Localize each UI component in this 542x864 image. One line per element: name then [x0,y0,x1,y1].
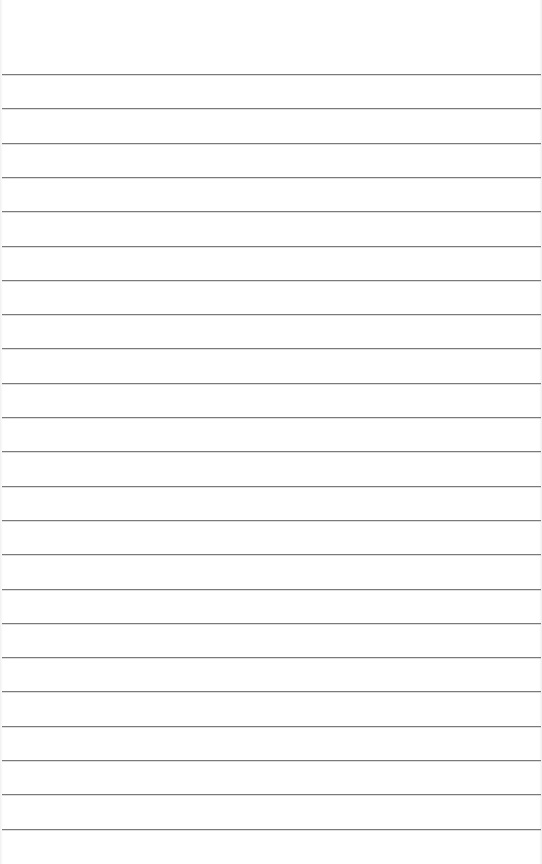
lined-paper-page [0,0,542,864]
paper-left-edge [0,0,3,864]
ruled-line [2,246,541,247]
ruled-line [2,794,541,795]
ruled-line [2,417,541,418]
ruled-line [2,177,541,178]
ruled-line [2,314,541,315]
ruled-line [2,554,541,555]
ruled-line [2,760,541,761]
ruled-line [2,623,541,624]
ruled-line [2,726,541,727]
ruled-line [2,108,541,109]
ruled-line [2,486,541,487]
ruled-line [2,348,541,349]
ruled-line [2,589,541,590]
ruled-line [2,829,541,830]
ruled-line [2,657,541,658]
ruled-line [2,143,541,144]
ruled-line [2,520,541,521]
ruled-line [2,74,541,75]
ruled-line [2,280,541,281]
ruled-line [2,383,541,384]
ruled-line [2,691,541,692]
ruled-line [2,451,541,452]
ruled-line [2,211,541,212]
